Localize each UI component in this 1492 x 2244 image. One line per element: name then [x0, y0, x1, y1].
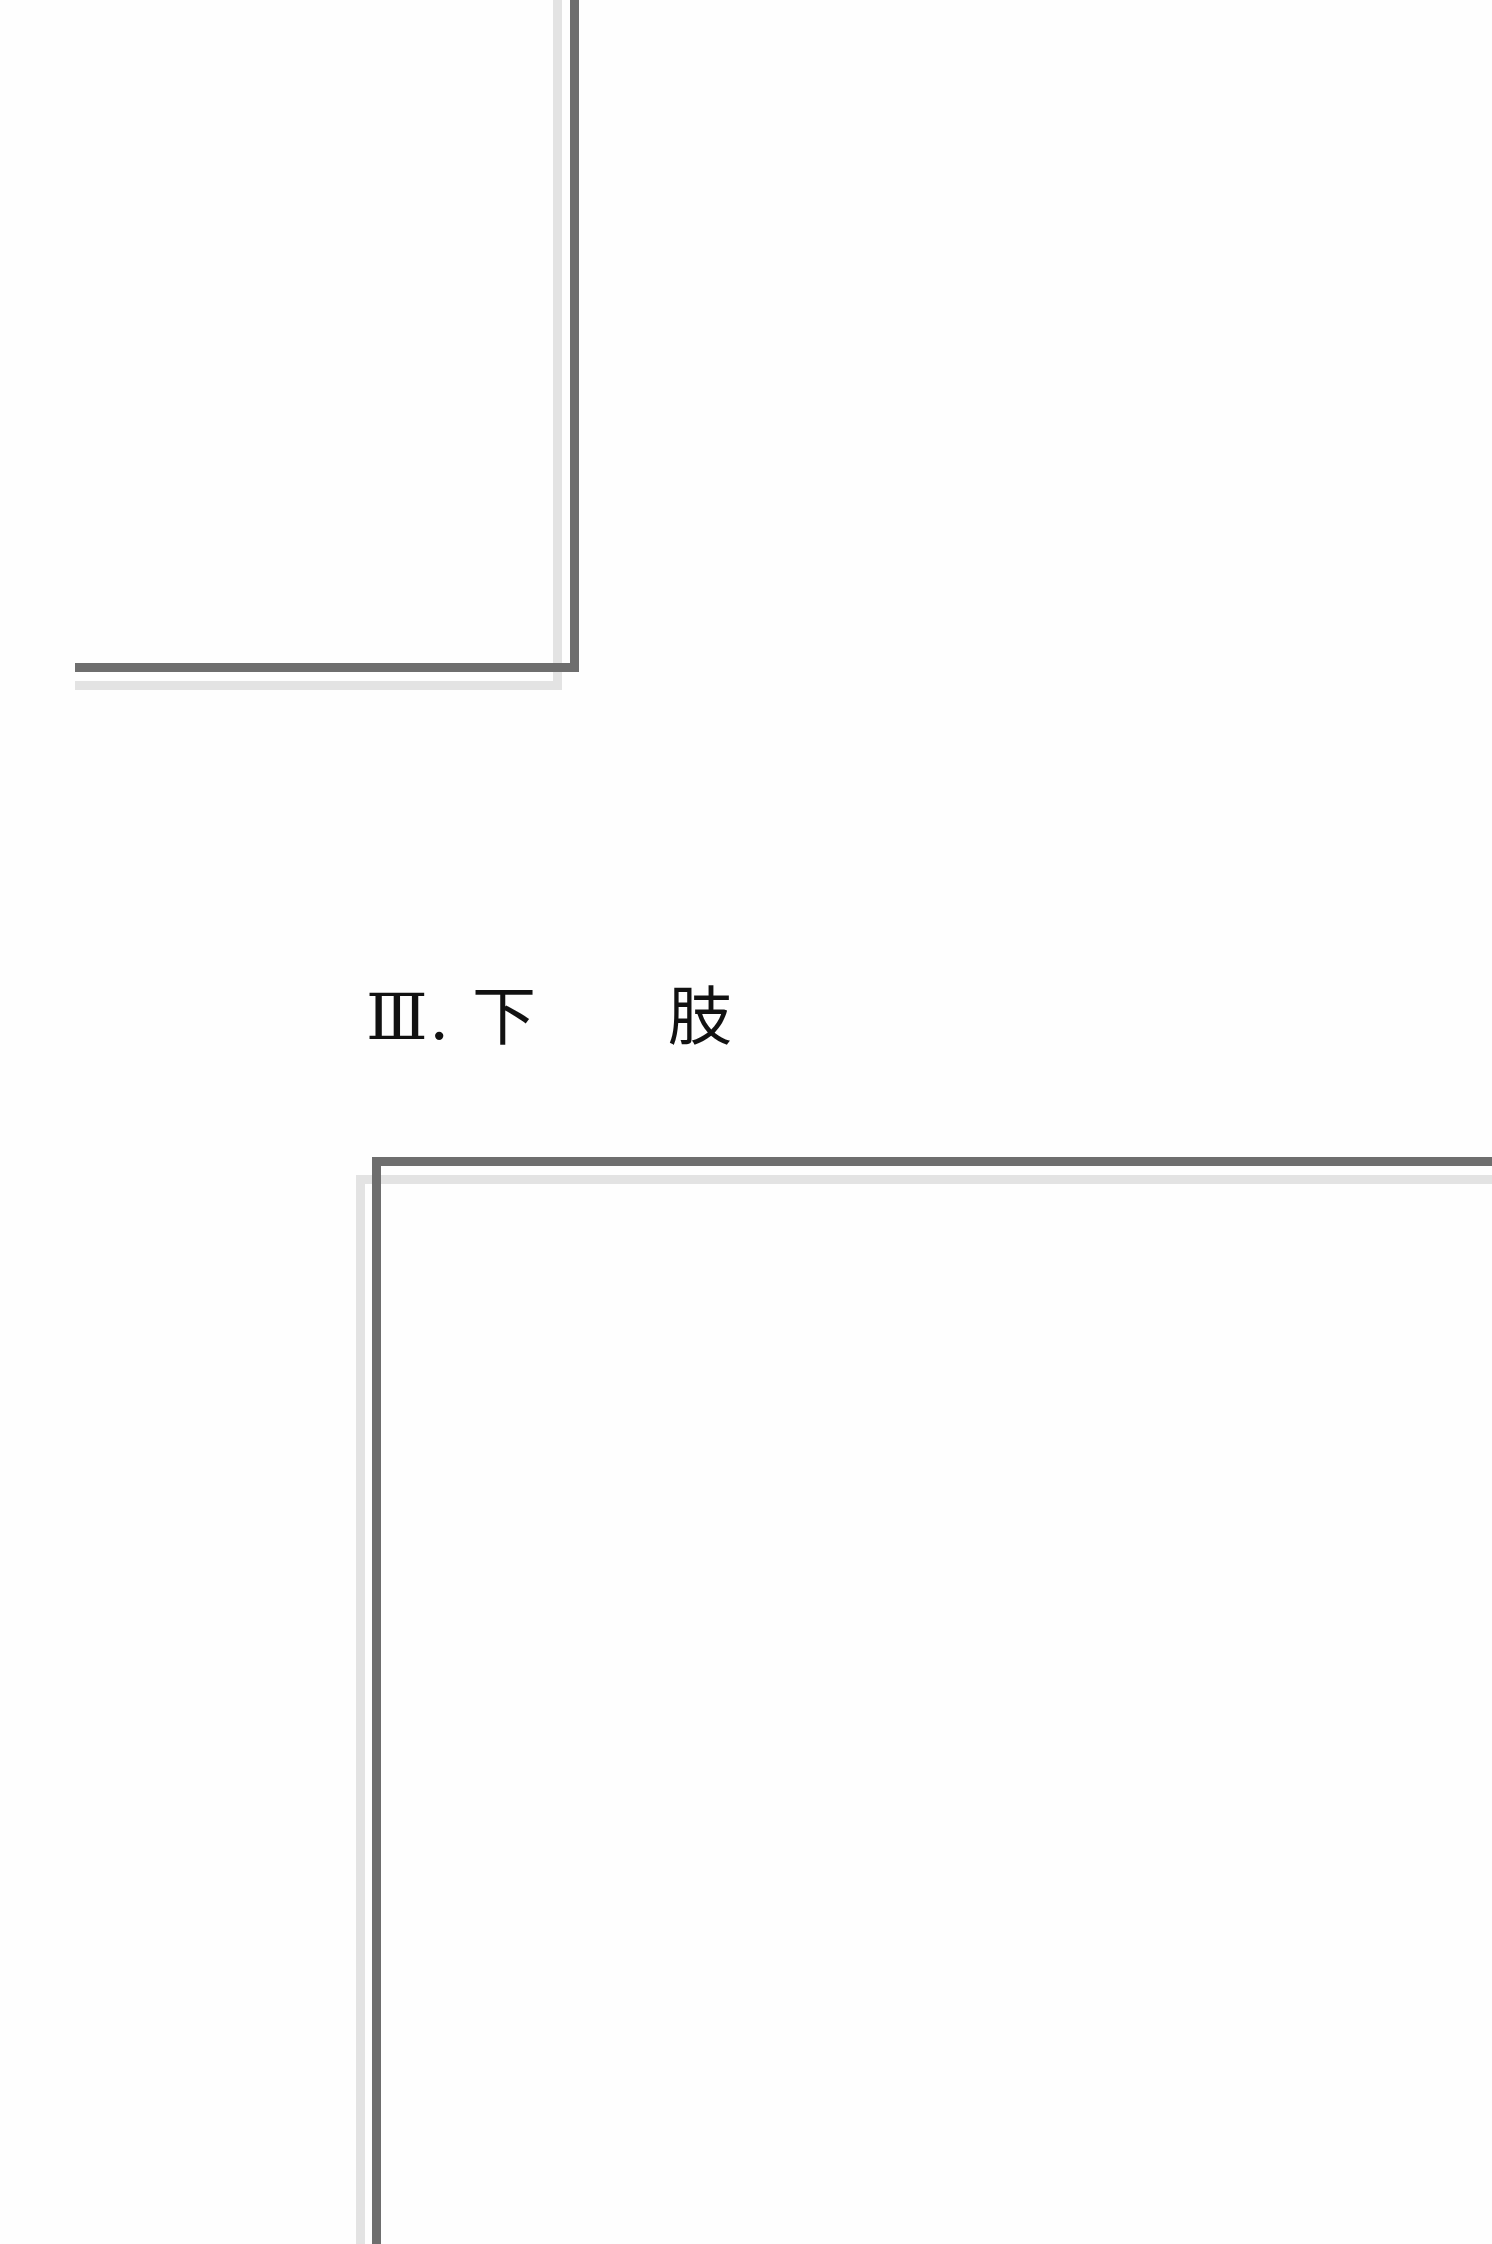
lower-frame-vertical-dark-rule [372, 1157, 381, 2244]
lower-frame-horizontal-light-rule [356, 1175, 1492, 1184]
lower-frame-horizontal-dark-rule [372, 1157, 1492, 1166]
section-heading: Ⅲ. 下 肢 [366, 985, 733, 1049]
upper-frame-horizontal-light-rule [75, 681, 562, 690]
upper-frame-vertical-dark-rule [570, 0, 579, 672]
lower-frame-vertical-light-rule [356, 1175, 365, 2244]
scanned-page: Ⅲ. 下 肢 [0, 0, 1492, 2244]
upper-frame-vertical-light-rule [553, 0, 562, 690]
upper-frame-horizontal-dark-rule [75, 663, 579, 672]
